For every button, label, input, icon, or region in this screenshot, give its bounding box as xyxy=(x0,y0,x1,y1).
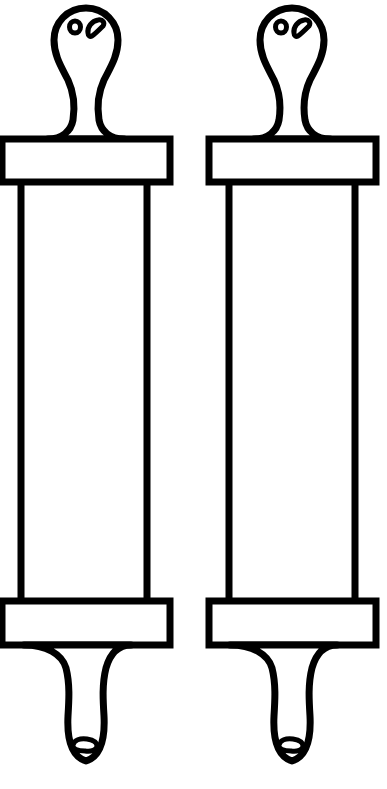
drawing-canvas: Two identical outlined rolling pin shape… xyxy=(0,0,387,789)
top-collar-left xyxy=(2,139,170,182)
bottom-collar-left xyxy=(2,601,170,645)
top-marking-circle-left xyxy=(70,21,81,33)
bottom-marking-bean-left xyxy=(73,739,97,752)
background-rect xyxy=(0,0,387,789)
line-drawing-svg xyxy=(0,0,387,789)
bottom-marking-bean-right xyxy=(279,739,303,752)
bottom-collar-right xyxy=(209,601,376,645)
top-marking-circle-right xyxy=(276,21,287,33)
top-collar-right xyxy=(209,139,376,182)
